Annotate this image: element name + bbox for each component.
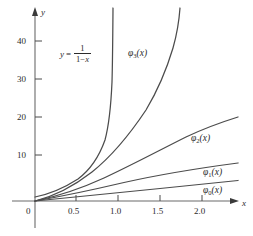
curve-label-phi2-arg: (x): [200, 133, 211, 143]
equation-lhs: y: [60, 49, 64, 59]
x-tick-label-0point5: 0.5: [68, 206, 79, 216]
origin-tick-label: 0: [26, 206, 31, 216]
x-axis-arrow-icon: [230, 198, 239, 204]
equation-numerator: 1: [77, 44, 87, 54]
y-axis-label: y: [41, 7, 45, 17]
curve-exact-solution: [35, 8, 113, 197]
equation-denominator-x: x: [85, 54, 89, 64]
curve-label-phi3-arg: (x): [137, 48, 148, 58]
curve-label-phi0-arg: (x): [212, 185, 223, 195]
curve-label-phi1-arg: (x): [212, 167, 223, 177]
x-axis-ticks: [76, 195, 202, 201]
y-axis-ticks: [35, 41, 42, 155]
curve-label-phi0: φ0(x): [203, 185, 222, 196]
y-tick-label-40: 40: [17, 36, 26, 46]
y-tick-label-20: 20: [17, 112, 26, 122]
curve-label-phi2: φ2(x): [191, 133, 210, 144]
y-axis-arrow-icon: [32, 7, 38, 16]
curve-label-phi3: φ3(x): [128, 48, 147, 59]
curve-label-phi1: φ1(x): [203, 167, 222, 178]
equation-fraction: 1 1−x: [74, 44, 91, 64]
curve-phi3: [35, 8, 180, 201]
exact-solution-equation: y = 1 1−x: [60, 44, 91, 64]
y-tick-label-10: 10: [17, 150, 26, 160]
x-tick-label-2point0: 2.0: [194, 206, 205, 216]
x-axis-label: x: [242, 198, 246, 208]
x-tick-label-1point5: 1.5: [152, 206, 163, 216]
x-tick-label-1point0: 1.0: [110, 206, 121, 216]
equation-equals: =: [66, 49, 71, 59]
function-plot: [0, 0, 253, 236]
equation-denominator: 1−x: [74, 54, 91, 64]
y-tick-label-30: 30: [17, 74, 26, 84]
